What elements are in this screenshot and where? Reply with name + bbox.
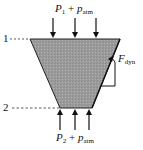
dynamic-force-label: Fdyn	[118, 53, 135, 66]
bottom-pressure-arrows	[57, 109, 92, 130]
top-pressure-label: P1 + patm	[55, 3, 93, 16]
section-1-label: 1	[3, 33, 9, 44]
section-2-label: 2	[3, 102, 9, 113]
top-pressure-arrows	[50, 18, 99, 38]
diagram-canvas	[0, 0, 143, 150]
bottom-pressure-label: P2 + patm	[56, 132, 94, 145]
